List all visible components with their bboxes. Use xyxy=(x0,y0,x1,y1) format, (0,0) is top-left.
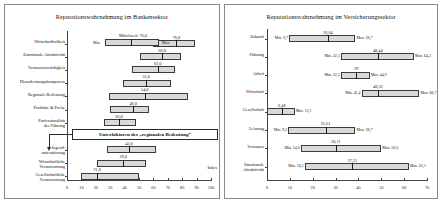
x-tick-label: 30 xyxy=(108,185,112,190)
x-tick xyxy=(427,178,428,181)
x-tick-label: 10 xyxy=(288,185,292,190)
callout-connector-vertical xyxy=(49,134,50,148)
callout-unterfaktoren: Unterfaktoren der „regionalen Bedeutung“ xyxy=(72,129,218,140)
category-label: Leistung xyxy=(226,126,264,131)
range-bar xyxy=(362,90,420,97)
min-value-label: Min. 16,5 xyxy=(288,164,304,168)
mean-value-label: 66,0 xyxy=(158,48,166,53)
x-tick xyxy=(358,178,359,181)
range-bar xyxy=(288,127,355,134)
x-tick-label: 0 xyxy=(266,185,268,190)
x-tick-label: 20 xyxy=(94,185,98,190)
min-value-label: Min. 9,7 xyxy=(275,36,289,40)
range-bar-row: 30,11Min. 14,8Max. 50,0 xyxy=(267,145,427,152)
min-value-label: Min. 9,3 xyxy=(274,128,288,132)
mean-marker xyxy=(145,93,146,100)
chart-title-right: Reputationswahrnehmung im Versicherungss… xyxy=(225,13,437,20)
mean-marker xyxy=(326,127,327,134)
range-bar-row: 66,0 xyxy=(67,53,211,60)
mean-marker xyxy=(158,66,159,73)
category-label: Vertrauenswürdigkeit xyxy=(7,65,65,70)
range-bar-row: 36,0 xyxy=(67,119,211,126)
range-bar-row: 46,0 xyxy=(67,106,211,113)
y-axis-right xyxy=(267,29,268,181)
legend-left: Mittelwert: 76,0 Min. Max. xyxy=(93,33,173,47)
range-bar-row: 55,0 xyxy=(67,80,211,87)
x-tick xyxy=(290,178,291,181)
x-tick-label: 50 xyxy=(379,185,383,190)
mean-value-label: 46,0 xyxy=(129,101,137,106)
callout-arrow-icon xyxy=(47,147,51,151)
category-label: Emotionale Attraktivität xyxy=(7,52,65,57)
min-value-label: Min. 41,4 xyxy=(345,91,361,95)
category-label: Wirtschaft xyxy=(226,89,264,94)
range-bar-row: 21,0 xyxy=(67,173,211,180)
mean-marker xyxy=(336,145,337,152)
legend-median-marker xyxy=(131,39,132,46)
mean-value-label: 39,0 xyxy=(119,154,127,159)
mean-marker xyxy=(123,160,124,167)
range-bar xyxy=(81,173,139,180)
mean-value-label: 30,11 xyxy=(331,139,341,144)
x-tick xyxy=(267,178,268,181)
range-bar-row: 48,52Min. 41,4Max. 66,7 xyxy=(267,90,427,97)
x-tick-label: 60 xyxy=(402,185,406,190)
legend-mean-label: Mittelwert: 76,0 xyxy=(119,33,147,38)
category-label: Gesellschaftliche Verantwortung xyxy=(7,172,65,182)
mean-marker xyxy=(162,53,163,60)
x-tick-label: 60 xyxy=(151,185,155,190)
mean-marker xyxy=(352,163,353,170)
mean-value-label: 26,64 xyxy=(323,30,333,35)
x-tick-label: 40 xyxy=(356,185,360,190)
max-value-label: Max. 50,0 xyxy=(381,146,398,150)
mean-value-label: 39 xyxy=(354,66,358,71)
mean-marker xyxy=(119,119,120,126)
x-tick-label: 30 xyxy=(333,185,337,190)
mean-marker xyxy=(378,90,379,97)
mean-value-label: 25,61 xyxy=(321,121,331,126)
panel-bankensektor: Reputationswahrnehmung im Bankensektor 0… xyxy=(4,4,220,199)
range-bar-row: 54,0 xyxy=(67,93,211,100)
range-bar-row: 25,61Min. 9,3Max. 38,7 xyxy=(267,127,427,134)
category-label: Jugend- unterstützung xyxy=(7,145,65,155)
range-bar-row: 39Min. 32,3Max. 44,9 xyxy=(267,72,427,79)
mean-value-label: 36,0 xyxy=(115,114,123,119)
max-value-label: Max. 44,9 xyxy=(370,73,387,77)
max-value-label: Max. 64,3 xyxy=(414,54,431,58)
category-label: Wirtschaftlichkeit xyxy=(7,39,65,44)
range-bar xyxy=(97,160,146,167)
range-bar-row: 48,44Min. 32,3Max. 64,3 xyxy=(267,53,427,60)
max-value-label: Max. 66,7 xyxy=(419,91,436,95)
min-value-label: Min. 14,8 xyxy=(284,146,300,150)
category-label: Professionalität der Führung xyxy=(7,118,65,128)
range-bar xyxy=(110,106,149,113)
axis-name-index: Index xyxy=(207,165,217,170)
category-label: Gesellschaft xyxy=(226,107,264,112)
range-bar xyxy=(109,93,188,100)
legend-max-label: Max. xyxy=(162,41,170,45)
x-tick-label: 40 xyxy=(123,185,127,190)
x-tick-label: 50 xyxy=(137,185,141,190)
mean-value-label: 48,44 xyxy=(373,48,383,53)
x-tick xyxy=(211,178,212,181)
category-label: Produkte & Preise xyxy=(7,105,65,110)
x-tick xyxy=(313,178,314,181)
mean-marker xyxy=(282,108,283,115)
mean-marker xyxy=(378,53,379,60)
x-tick-label: 10 xyxy=(79,185,83,190)
figure-root: Reputationswahrnehmung im Bankensektor 0… xyxy=(0,0,442,203)
mean-value-label: 6,48 xyxy=(278,103,286,108)
x-tick-label: 20 xyxy=(311,185,315,190)
range-bar-row: 26,64Min. 9,7Max. 38,7 xyxy=(267,35,427,42)
range-bar xyxy=(305,163,409,170)
mean-value-label: 43,0 xyxy=(125,141,133,146)
mean-marker xyxy=(97,173,98,180)
x-tick xyxy=(404,178,405,181)
category-label: Führung xyxy=(226,52,264,57)
range-bar xyxy=(301,145,381,152)
mean-value-label: 76,0 xyxy=(173,35,181,40)
x-tick-label: 80 xyxy=(180,185,184,190)
min-value-label: Min. 32,3 xyxy=(324,73,340,77)
range-bar xyxy=(107,146,156,153)
chart-title-left: Reputationswahrnehmung im Bankensektor xyxy=(5,13,219,20)
